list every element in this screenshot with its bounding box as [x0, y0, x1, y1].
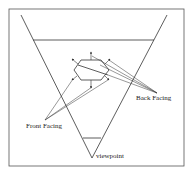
back-facing-leaders — [92, 56, 157, 93]
object-polygon — [74, 60, 109, 80]
viewpoint-label: viewpoint — [96, 153, 124, 160]
frustum-diagram: Back Facing Front Facing viewpoint — [0, 0, 192, 175]
back-facing-label: Back Facing — [136, 95, 171, 102]
diagram-canvas — [0, 0, 192, 175]
front-facing-label: Front Facing — [26, 123, 62, 130]
front-facing-leaders — [45, 79, 108, 120]
